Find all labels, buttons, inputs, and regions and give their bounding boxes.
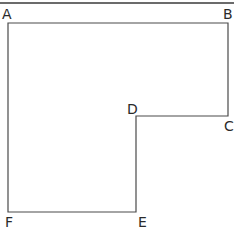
vertex-label-f: F <box>5 214 13 230</box>
vertex-label-c: C <box>224 118 234 134</box>
l-shape-diagram: A B C D E F <box>0 0 243 232</box>
vertex-label-a: A <box>2 6 12 22</box>
vertex-label-d: D <box>127 101 138 117</box>
vertex-label-b: B <box>223 6 233 22</box>
vertex-label-e: E <box>138 214 147 230</box>
l-shape-outline <box>8 23 228 212</box>
